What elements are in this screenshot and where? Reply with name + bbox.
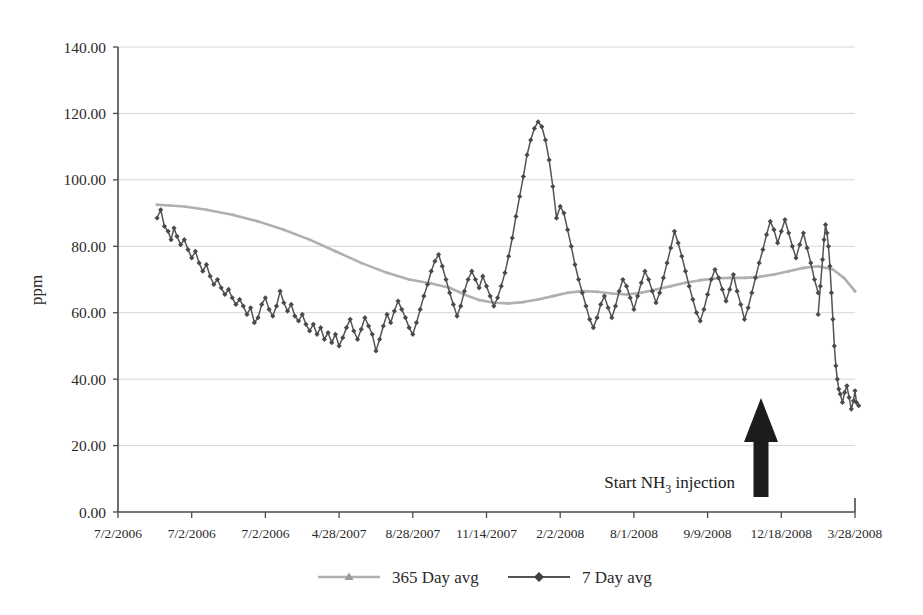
data-point-marker (517, 194, 522, 199)
data-point-marker (451, 302, 456, 307)
data-point-marker (513, 214, 518, 219)
data-point-marker (738, 302, 743, 307)
data-point-marker (454, 313, 459, 318)
data-point-marker (158, 207, 163, 212)
data-point-marker (440, 264, 445, 269)
data-point-marker (480, 274, 485, 279)
data-point-marker (728, 276, 731, 279)
data-point-marker (818, 284, 823, 289)
data-point-marker (196, 260, 201, 265)
data-point-marker (473, 277, 478, 282)
data-point-marker (790, 244, 795, 249)
data-point-marker (831, 268, 834, 271)
data-point-marker (522, 301, 525, 304)
ppm-time-series-chart: 0.0020.0040.0060.0080.00100.00120.00140.… (0, 0, 923, 615)
data-point-marker (565, 227, 570, 232)
data-point-marker (646, 277, 651, 282)
x-tick-label: 9/9/2008 (684, 526, 732, 541)
data-point-marker (278, 289, 283, 294)
y-axis-tick-labels: 0.0020.0040.0060.0080.00100.00120.00140.… (63, 39, 118, 521)
data-point-marker (381, 323, 386, 328)
y-tick-label: 100.00 (63, 171, 106, 188)
x-tick-label: 3/28/2008 (828, 526, 883, 541)
data-point-marker (418, 307, 423, 312)
data-point-marker (842, 276, 845, 279)
data-point-marker (598, 302, 603, 307)
data-point-marker (823, 222, 828, 227)
data-point-marker (854, 290, 857, 293)
data-point-marker (373, 348, 378, 353)
data-point-marker (779, 229, 784, 234)
data-point-marker (348, 317, 353, 322)
data-point-marker (742, 317, 747, 322)
x-tick-label: 4/28/2007 (312, 526, 367, 541)
x-tick-label: 7/2/2006 (168, 526, 216, 541)
data-point-marker (488, 294, 493, 299)
annotation-label: Start NH3 injection (604, 473, 735, 496)
data-point-marker (362, 315, 367, 320)
data-point-marker (712, 267, 717, 272)
data-point-marker (154, 215, 159, 220)
data-point-marker (205, 208, 208, 211)
data-point-marker (609, 315, 614, 320)
data-point-marker (355, 337, 360, 342)
data-point-marker (386, 271, 389, 274)
data-point-marker (676, 240, 681, 245)
data-point-marker (852, 388, 857, 393)
data-point-marker (830, 317, 835, 322)
data-point-marker (156, 203, 159, 206)
axis-lines (118, 47, 855, 512)
data-point-marker (543, 137, 548, 142)
x-tick-label: 2/2/2008 (536, 526, 584, 541)
data-point-marker (257, 220, 260, 223)
data-point-marker (832, 343, 837, 348)
data-point-marker (734, 289, 739, 294)
data-point-marker (414, 320, 419, 325)
data-point-marker (679, 254, 684, 259)
data-point-marker (833, 363, 838, 368)
data-point-marker (551, 295, 554, 298)
data-point-marker (787, 270, 790, 273)
data-point-marker (640, 291, 643, 294)
data-point-marker (826, 244, 831, 249)
data-point-marker (802, 266, 805, 269)
legend-label-7-day-avg[interactable]: 7 Day avg (582, 568, 652, 587)
legend-label-365-day-avg[interactable]: 365 Day avg (392, 568, 479, 587)
data-point-marker (743, 276, 746, 279)
data-point-marker (705, 292, 710, 297)
data-point-marker (274, 303, 279, 308)
data-point-marker (849, 406, 854, 411)
data-point-marker (443, 277, 448, 282)
data-point-marker (281, 300, 286, 305)
data-point-marker (388, 320, 393, 325)
data-point-marker (366, 323, 371, 328)
chart-container: 0.0020.0040.0060.0080.00100.00120.00140.… (0, 0, 923, 615)
data-point-marker (502, 270, 507, 275)
data-point-marker (817, 265, 820, 268)
data-point-marker (337, 343, 342, 348)
data-point-marker (772, 273, 775, 276)
y-tick-label: 60.00 (71, 304, 106, 321)
data-point-marker (208, 274, 213, 279)
data-point-marker (506, 254, 511, 259)
data-point-marker (606, 305, 611, 310)
data-point-marker (764, 232, 769, 237)
x-tick-label: 7/2/2006 (241, 526, 289, 541)
data-point-marker (576, 277, 581, 282)
data-point-marker (613, 303, 618, 308)
series-line-365-day-avg (157, 205, 855, 304)
data-point-marker (499, 284, 504, 289)
x-tick-label: 11/14/2007 (456, 526, 517, 541)
data-point-marker (655, 288, 658, 291)
data-point-marker (477, 285, 482, 290)
data-point-marker (746, 305, 751, 310)
data-point-marker (430, 282, 433, 285)
data-point-marker (672, 229, 677, 234)
data-point-marker (171, 225, 176, 230)
data-point-marker (602, 294, 607, 299)
data-point-marker (334, 250, 337, 253)
data-point-marker (786, 230, 791, 235)
data-point-marker (591, 325, 596, 330)
data-point-marker (775, 240, 780, 245)
legend: 365 Day avg7 Day avg (318, 568, 652, 587)
